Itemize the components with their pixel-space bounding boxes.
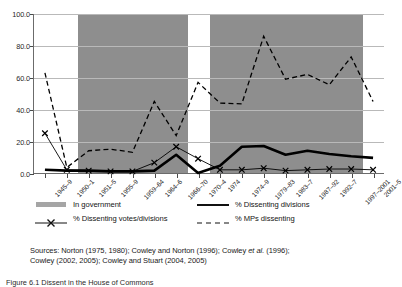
x-axis-tick-label: 1964–6 [163, 178, 183, 198]
legend-label-mps-dissenting: % MPs dissenting [235, 214, 295, 223]
x-axis-tick-label: 1987–92 [318, 178, 341, 201]
legend-row-1: In government % Dissenting divisions [34, 199, 364, 209]
x-axis-tick-label: 1974–9 [251, 178, 271, 198]
y-axis-tick-label: 60.0 [0, 74, 30, 83]
data-point-marker [152, 160, 158, 166]
x-axis-tick-label: 1950–1 [75, 178, 95, 198]
x-axis-tick-label: 1979–83 [274, 178, 297, 201]
legend-item-mps-dissenting: % MPs dissenting [196, 214, 361, 224]
x-axis-tick-label: 1966–70 [186, 178, 209, 201]
sources-note: Sources: Norton (1975, 1980); Cowley and… [30, 246, 390, 266]
data-point-marker [173, 144, 179, 150]
legend-line-dashed-icon [196, 214, 230, 224]
sources-line2: Cowley (2002, 2005); Cowley and Stuart (… [30, 256, 207, 265]
x-axis-tick-label: 1955–9 [119, 178, 139, 198]
sources-line1-suffix: (1996); [264, 246, 289, 255]
x-axis-tick-mark [45, 174, 46, 178]
legend-swatch-grey-icon [34, 199, 68, 209]
figure-caption: Figure 6.1 Dissent in the House of Commo… [6, 278, 396, 287]
x-axis-tick-label: 1970–4 [207, 178, 227, 198]
y-axis-tick-label: 80.0 [0, 42, 30, 51]
legend-item-dissenting-votes: % Dissenting votes/divisions [34, 214, 196, 224]
plot-area [33, 14, 384, 174]
legend-line-thick-solid-icon [196, 199, 230, 209]
x-axis-tick-mark [199, 174, 200, 178]
legend-item-in-government: In government [34, 199, 196, 209]
x-axis-tick-label: 1992–7 [338, 178, 358, 198]
chart-plot: 100.080.060.040.020.00.0 1945–91950–1195… [0, 0, 401, 180]
y-axis-tick-label: 0.0 [0, 170, 30, 179]
legend-label-dissenting-votes: % Dissenting votes/divisions [73, 214, 167, 223]
data-point-marker [42, 130, 48, 136]
legend-label-dissenting-divisions: % Dissenting divisions [235, 200, 309, 209]
sources-line1-italic: et al. [248, 246, 264, 255]
sources-line1-prefix: Sources: Norton (1975, 1980); Cowley and… [30, 246, 248, 255]
legend-row-2: % Dissenting votes/divisions % MPs disse… [34, 214, 364, 224]
legend-item-dissenting-divisions: % Dissenting divisions [196, 199, 361, 209]
y-axis-tick-label: 40.0 [0, 106, 30, 115]
x-axis-tick-label: 1974 [227, 178, 242, 193]
x-axis-tick-label: 1951–5 [97, 178, 117, 198]
x-axis-tick-label: 1983–7 [295, 178, 315, 198]
series-dashed [45, 36, 373, 167]
y-axis-tick-mark [30, 174, 34, 175]
legend-label-in-government: In government [73, 200, 121, 209]
chart-legend: In government % Dissenting divisions % D… [34, 199, 364, 228]
x-axis-tick-mark [155, 174, 156, 178]
series-lines [34, 14, 384, 173]
y-axis-tick-label: 20.0 [0, 138, 30, 147]
x-axis-tick-mark [330, 174, 331, 178]
x-axis-tick-mark [286, 174, 287, 178]
x-axis-tick-label: 1945–9 [53, 178, 73, 198]
x-axis-tick-mark [374, 174, 375, 178]
y-axis-tick-label: 100.0 [0, 10, 30, 19]
x-axis-tick-mark [242, 174, 243, 178]
legend-line-x-marker-icon [34, 214, 68, 224]
x-axis-tick-label: 1959–64 [142, 178, 165, 201]
data-point-marker [195, 156, 201, 162]
